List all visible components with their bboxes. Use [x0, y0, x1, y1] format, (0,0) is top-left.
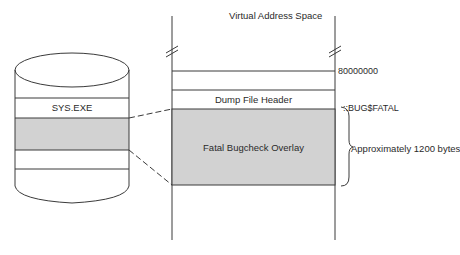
disk-cylinder-icon	[15, 53, 129, 203]
dump-file-header-label: Dump File Header	[172, 95, 335, 105]
base-address-label: 80000000	[338, 67, 378, 76]
bug-fatal-symbol-label: ::BUG$FATAL	[343, 104, 399, 113]
fatal-bugcheck-overlay-label: Fatal Bugcheck Overlay	[172, 143, 335, 153]
size-annotation-label: Approximately 1200 bytes	[351, 144, 460, 154]
sys-exe-label: SYS.EXE	[15, 103, 129, 113]
diagram-canvas	[0, 0, 460, 255]
sys-exe-shaded-section	[15, 118, 129, 150]
mapping-connectors	[129, 109, 172, 185]
region-dividers	[172, 71, 335, 90]
diagram-title: Virtual Address Space	[229, 11, 322, 21]
